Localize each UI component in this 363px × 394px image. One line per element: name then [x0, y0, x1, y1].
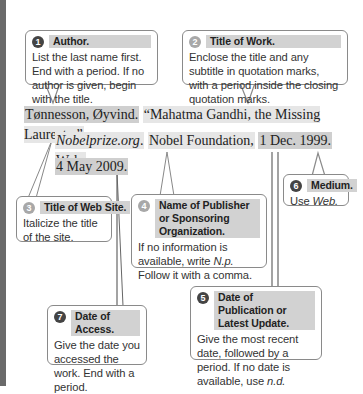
callout-title: Date of Access.	[71, 310, 140, 336]
callout-title: Medium.	[307, 179, 357, 192]
callout-title: Title of Work.	[206, 35, 341, 48]
callout-body: Enclose the title and any subtitle in qu…	[189, 50, 341, 106]
callout-body: Use Web.	[290, 194, 342, 208]
callout-title: Title of Web Site.	[40, 201, 130, 214]
callout-author: 1Author. List the last name first. End w…	[25, 30, 158, 85]
callout-publisher: 4Name of Publisher or Sponsoring Organiz…	[131, 194, 267, 268]
callout-medium: 6Medium. Use Web.	[283, 174, 349, 206]
callout-web-site: 3Title of Web Site. Italicize the title …	[16, 196, 112, 242]
step-number-badge: 5	[197, 292, 209, 304]
citation-publisher: Nobel Foundation,	[148, 132, 255, 149]
step-number-badge: 4	[138, 200, 150, 212]
citation-pub-date: 1 Dec. 1999.	[258, 132, 332, 149]
citation-line-3: 4 May 2009.	[55, 157, 128, 177]
step-number-badge: 2	[189, 36, 201, 48]
callout-body: Give the date you accessed the work. End…	[54, 338, 140, 394]
step-number-badge: 6	[290, 180, 302, 192]
step-number-badge: 1	[32, 36, 44, 48]
callout-title-of-work: 2Title of Work. Enclose the title and an…	[182, 30, 348, 85]
callout-title: Name of Publisher or Sponsoring Organiza…	[155, 199, 260, 238]
citation-site: Nobelprize.org.	[55, 132, 144, 149]
step-number-badge: 3	[23, 202, 35, 214]
callout-body: Give the most recent date, followed by a…	[197, 332, 315, 388]
site-punct: .	[140, 133, 144, 148]
citation-author: Tønnesson, Øyvind.	[24, 106, 139, 123]
callout-body: List the last name first. End with a per…	[32, 50, 151, 106]
callout-body: Italicize the title of the site.	[23, 216, 105, 244]
callout-title: Author.	[49, 35, 151, 48]
site-name: Nobelprize.org	[56, 133, 140, 148]
callout-pub-date: 5Date of Publication or Latest Update. G…	[190, 286, 322, 360]
callout-title: Date of Publication or Latest Update.	[214, 291, 315, 330]
step-number-badge: 7	[54, 311, 66, 323]
callout-access-date: 7Date of Access. Give the date you acces…	[47, 305, 147, 365]
callout-body: If no information is available, write N.…	[138, 240, 260, 282]
citation-access-date: 4 May 2009.	[55, 158, 128, 175]
